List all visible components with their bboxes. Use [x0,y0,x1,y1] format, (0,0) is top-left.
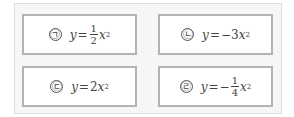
exponent: 2 [247,83,251,91]
option-label-4: ㉣ [180,80,193,93]
equals-sign: = [210,28,220,42]
variable: x [99,28,106,42]
exponent: 2 [245,31,249,39]
fraction: 1 2 [90,23,98,46]
variable: x [98,80,105,94]
exponent: 2 [106,31,110,39]
fraction-numerator: 1 [231,75,239,87]
coefficient: 3 [231,28,239,42]
sign: − [220,80,230,94]
option-card-1: ㉠ y = 1 2 x2 [22,14,137,55]
fraction-denominator: 4 [232,87,238,98]
fraction-denominator: 2 [91,35,97,46]
option-label-2: ㉡ [181,28,194,41]
option-label-3: ㉢ [50,80,63,93]
variable: x [240,80,247,94]
equals-sign: = [78,28,88,42]
variable: x [239,28,246,42]
exponent: 2 [104,83,108,91]
option-card-3: ㉢ y = 2 x2 [22,66,137,107]
equation-lhs: y [201,80,208,94]
equation-lhs: y [70,28,77,42]
equation-lhs: y [202,28,209,42]
sign: − [221,28,231,42]
fraction-numerator: 1 [90,23,98,35]
fraction: 1 4 [231,75,239,98]
option-card-4: ㉣ y = − 1 4 x2 [158,66,273,107]
option-card-2: ㉡ y = − 3 x2 [158,14,273,55]
coefficient: 2 [90,80,98,94]
option-label-1: ㉠ [49,28,62,41]
equals-sign: = [209,80,219,94]
equation-lhs: y [71,80,78,94]
equals-sign: = [79,80,89,94]
